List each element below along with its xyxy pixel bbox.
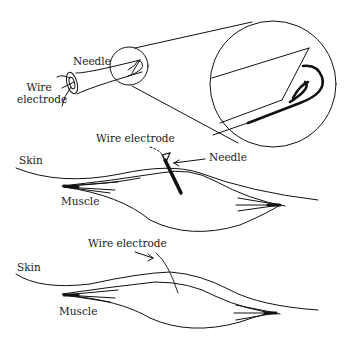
label-muscle-bottom: Muscle	[59, 306, 97, 318]
label-wire-top-line1: Wire	[17, 82, 61, 94]
diagram-canvas	[0, 0, 351, 343]
magnifier-large-circle	[210, 21, 336, 147]
label-needle-top: Needle	[73, 56, 111, 68]
magnifier-projection-lines	[132, 22, 252, 143]
label-wire-electrode-bottom: Wire electrode	[88, 238, 167, 250]
label-skin-bottom: Skin	[17, 262, 41, 274]
label-needle-middle: Needle	[209, 152, 247, 164]
label-skin-middle: Skin	[19, 155, 43, 167]
arrow-needle-label	[174, 159, 205, 166]
label-wire-top: Wire electrode	[17, 82, 61, 105]
label-wire-top-line2: electrode	[17, 94, 61, 106]
label-muscle-middle: Muscle	[61, 196, 99, 208]
label-wire-electrode-middle: Wire electrode	[96, 133, 175, 145]
needle-in-skin	[150, 147, 181, 193]
